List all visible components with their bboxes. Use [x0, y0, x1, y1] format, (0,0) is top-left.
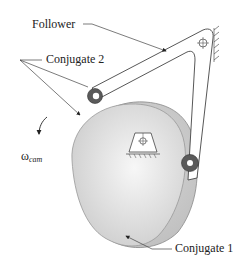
rotation-arrow-icon: [39, 117, 47, 134]
follower-label: Follower: [32, 17, 75, 31]
ground-hatch-icon: [214, 26, 219, 62]
omega-symbol: ω: [21, 149, 29, 163]
conjugate1-label: Conjugate 1: [175, 241, 233, 255]
conjugate2-label: Conjugate 2: [46, 52, 104, 66]
omega-subscript: cam: [29, 155, 43, 164]
upper-roller-icon: [88, 89, 103, 104]
conjugate-cam-diagram: Follower Conjugate 2 Conjugate 1 ωcam: [0, 0, 245, 268]
follower-leader-line: [83, 24, 166, 51]
omega-cam-label: ωcam: [21, 149, 42, 164]
conjugate2-leader-line-a: [20, 60, 80, 115]
lower-roller-icon: [182, 155, 199, 172]
